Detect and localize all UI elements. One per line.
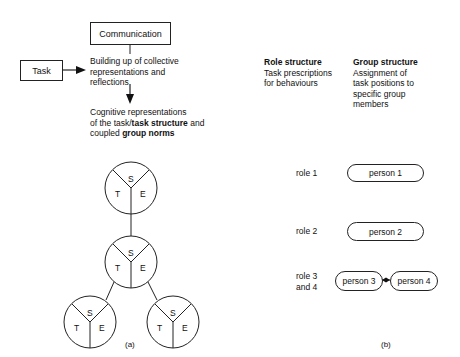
circle-bottom-right [147, 296, 199, 348]
and-4-line: and 4 [296, 282, 317, 293]
task-structure-bold: task structure [132, 118, 188, 128]
group-structure-line-1: Assignment of [353, 68, 418, 79]
circle-bottom-left-e: E [99, 323, 105, 334]
circle-middle-e: E [140, 263, 146, 274]
role-1-label: role 1 [296, 168, 317, 179]
person-3-pill: person 3 [335, 271, 383, 291]
task-box: Task [20, 60, 63, 81]
group-structure-line-2: task positions to [353, 78, 418, 89]
person-2-label: person 2 [369, 227, 402, 237]
role-structure-title: Role structure [264, 57, 332, 68]
circle-top-e: E [140, 189, 146, 200]
circle-top-t: T [115, 189, 120, 200]
caption-a: (a) [125, 340, 135, 349]
group-structure-line-4: members [353, 99, 418, 110]
role-2-label: role 2 [296, 226, 317, 237]
cognitive-text: Cognitive representations of the task/ta… [90, 107, 204, 139]
person-4-pill: person 4 [390, 271, 438, 291]
building-line-2: representations and [90, 67, 179, 78]
cognitive-line-2-suffix: and [188, 118, 205, 128]
role-3-line: role 3 [296, 271, 317, 282]
group-norms-bold: group norms [122, 128, 174, 138]
communication-box: Communication [90, 22, 171, 45]
person-3-label: person 3 [342, 276, 375, 286]
building-text: Building up of collective representation… [90, 56, 179, 88]
role-3-4-label: role 3 and 4 [296, 271, 317, 292]
cognitive-line-3: coupled group norms [90, 128, 204, 139]
group-structure-title: Group structure [353, 57, 418, 68]
task-label: Task [32, 66, 51, 76]
role-structure-block: Role structure Task prescriptions for be… [264, 57, 332, 89]
circle-middle [105, 236, 157, 288]
cognitive-line-2-prefix: of the task/ [90, 118, 132, 128]
circle-bottom-right-t: T [157, 323, 162, 334]
group-structure-block: Group structure Assignment of task posit… [353, 57, 418, 110]
person-1-label: person 1 [369, 168, 402, 178]
building-line-3: reflections [90, 77, 179, 88]
circle-bottom-left [64, 296, 116, 348]
building-line-1: Building up of collective [90, 56, 179, 67]
role-structure-line-1: Task prescriptions [264, 68, 332, 79]
group-structure-line-3: specific group [353, 89, 418, 100]
circle-top [105, 162, 157, 214]
circle-bottom-right-s: S [170, 308, 176, 319]
circle-bottom-left-t: T [74, 323, 79, 334]
communication-label: Communication [99, 29, 162, 39]
circle-bottom-right-e: E [182, 323, 188, 334]
circle-middle-s: S [128, 248, 134, 259]
person-2-pill: person 2 [347, 222, 424, 241]
person-1-pill: person 1 [347, 164, 424, 182]
role-structure-line-2: for behaviours [264, 78, 332, 89]
circle-middle-t: T [115, 263, 120, 274]
circle-bottom-left-s: S [87, 308, 93, 319]
circle-top-s: S [128, 174, 134, 185]
cognitive-line-3-prefix: coupled [90, 128, 122, 138]
cognitive-line-1: Cognitive representations [90, 107, 204, 118]
caption-b: (b) [381, 340, 391, 349]
person-4-label: person 4 [397, 276, 430, 286]
cognitive-line-2: of the task/task structure and [90, 118, 204, 129]
